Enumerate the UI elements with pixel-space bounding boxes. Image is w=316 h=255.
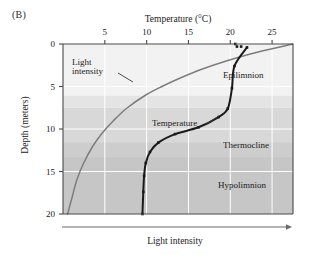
data-point-marker [233,65,236,68]
data-point-marker [246,46,249,49]
data-point-marker [142,191,145,194]
data-point-marker [145,162,148,165]
zone-label-hypolimnion: Hypolimnion [218,180,266,190]
annotation-light-intensity: Light intensity [72,58,103,77]
data-point-marker [157,141,160,144]
zone-band-transition-upper [63,96,293,108]
zone-label-epilimnion: Epilimnion [223,70,264,80]
arrow-head [286,224,292,230]
annotation-temperature: Temperature [152,119,197,128]
data-point-marker [231,87,234,90]
data-point-marker [143,174,146,177]
data-point-marker [226,107,229,110]
data-point-marker [240,45,243,48]
figure-panel-b: (B) Temperature (°C) Depth (meters) Ligh… [0,0,316,255]
data-point-marker [197,126,200,129]
data-point-marker [236,45,239,48]
data-point-marker [174,133,177,136]
zone-label-thermocline: Thermocline [223,140,269,150]
data-point-marker [149,151,152,154]
light-intensity-arrow [62,224,292,230]
